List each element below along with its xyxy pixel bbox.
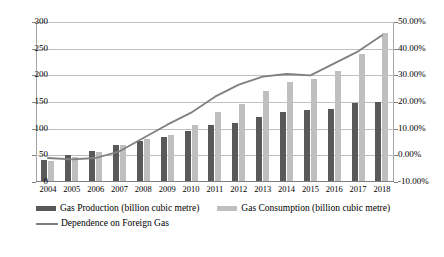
bar-group: [275, 22, 299, 182]
y-axis-left-tick-label: 200: [8, 70, 48, 79]
bar-gas-consumption: [168, 135, 174, 182]
chart-container: 2004200520062007200820092010201120122013…: [0, 0, 444, 257]
bar-gas-production: [352, 103, 358, 182]
bar-gas-consumption: [96, 152, 102, 182]
bar-gas-production: [185, 131, 191, 182]
bar-gas-consumption: [144, 139, 150, 182]
bar-gas-production: [161, 137, 167, 182]
axis-tick-mark: [32, 182, 36, 183]
x-axis-tick-label: 2017: [346, 184, 370, 194]
axis-tick-mark: [394, 22, 398, 23]
y-axis-left-tick-label: 100: [8, 124, 48, 133]
legend-item-gas-consumption[interactable]: Gas Consumption (billion cubic metre): [217, 203, 390, 214]
bar-group: [298, 22, 322, 182]
x-axis-tick-label: 2012: [227, 184, 251, 194]
bar-gas-production: [137, 141, 143, 182]
bar-gas-production: [304, 110, 310, 182]
bar-group: [179, 22, 203, 182]
y-axis-right-tick-label: 20.00%: [398, 97, 444, 106]
axis-tick-mark: [32, 75, 36, 76]
axis-tick-mark: [394, 75, 398, 76]
y-axis-left-tick-label: 150: [8, 97, 48, 106]
x-axis-tick-label: 2009: [155, 184, 179, 194]
x-axis-tick-label: 2005: [60, 184, 84, 194]
bar-group: [251, 22, 275, 182]
bar-group: [131, 22, 155, 182]
bar-gas-consumption: [239, 104, 245, 182]
bar-group: [203, 22, 227, 182]
axis-tick-mark: [32, 129, 36, 130]
legend-row-1: Gas Production (billion cubic metre) Gas…: [36, 203, 408, 214]
bar-gas-production: [113, 145, 119, 182]
y-axis-right-tick-label: 30.00%: [398, 70, 444, 79]
legend-label-consumption: Gas Consumption (billion cubic metre): [241, 203, 390, 214]
axis-tick-mark: [32, 49, 36, 50]
axis-tick-mark: [394, 155, 398, 156]
bar-gas-consumption: [359, 54, 365, 182]
y-axis-left-tick-label: 250: [8, 44, 48, 53]
legend-item-gas-production[interactable]: Gas Production (billion cubic metre): [36, 203, 199, 214]
y-axis-left-tick-label: 300: [8, 17, 48, 26]
axis-tick-mark: [32, 22, 36, 23]
axis-tick-mark: [394, 102, 398, 103]
x-axis-tick-label: 2008: [131, 184, 155, 194]
bar-gas-consumption: [48, 161, 54, 182]
axis-tick-mark: [32, 102, 36, 103]
bar-group: [84, 22, 108, 182]
bar-group: [108, 22, 132, 182]
bar-gas-production: [65, 155, 71, 182]
x-axis-tick-label: 2007: [108, 184, 132, 194]
plot-area: [36, 22, 394, 182]
x-axis-tick-label: 2018: [370, 184, 394, 194]
bar-gas-production: [232, 123, 238, 182]
y-axis-left-tick-label: 0: [8, 177, 48, 186]
legend-swatch-production-icon: [36, 206, 56, 211]
bar-gas-consumption: [263, 91, 269, 182]
x-axis-tick-label: 2013: [251, 184, 275, 194]
x-axis-labels: 2004200520062007200820092010201120122013…: [36, 184, 394, 194]
y-axis-left-tick-label: 50: [8, 150, 48, 159]
bar-group: [60, 22, 84, 182]
chart-legend: Gas Production (billion cubic metre) Gas…: [36, 203, 408, 233]
x-axis-tick-label: 2016: [322, 184, 346, 194]
bar-gas-production: [280, 112, 286, 182]
legend-label-dependence: Dependence on Foreign Gas: [61, 218, 169, 229]
bar-group: [322, 22, 346, 182]
legend-item-dependence-on-foreign-gas[interactable]: Dependence on Foreign Gas: [36, 218, 169, 229]
legend-swatch-consumption-icon: [217, 206, 237, 211]
legend-row-2: Dependence on Foreign Gas: [36, 218, 408, 229]
y-axis-right-tick-label: 10.00%: [398, 124, 444, 133]
axis-tick-mark: [394, 182, 398, 183]
bar-gas-consumption: [382, 33, 388, 182]
bar-gas-consumption: [192, 125, 198, 182]
legend-swatch-line-icon: [36, 223, 58, 225]
bar-group: [346, 22, 370, 182]
bar-gas-production: [375, 102, 381, 182]
y-axis-right-tick-label: 40.00%: [398, 44, 444, 53]
bar-group: [227, 22, 251, 182]
y-axis-right-tick-label: -10.00%: [398, 177, 444, 186]
bar-gas-production: [256, 117, 262, 182]
x-axis-tick-label: 2010: [179, 184, 203, 194]
x-axis-tick-label: 2015: [298, 184, 322, 194]
y-axis-right-tick-label: 0.00%: [398, 150, 444, 159]
legend-label-production: Gas Production (billion cubic metre): [60, 203, 199, 214]
x-axis-baseline: [36, 181, 394, 182]
axis-tick-mark: [394, 129, 398, 130]
axis-tick-mark: [32, 155, 36, 156]
bar-gas-consumption: [72, 157, 78, 182]
bar-gas-consumption: [120, 145, 126, 182]
bar-gas-consumption: [287, 82, 293, 182]
bar-gas-consumption: [215, 112, 221, 182]
bar-group: [155, 22, 179, 182]
axis-tick-mark: [394, 49, 398, 50]
x-axis-tick-label: 2006: [84, 184, 108, 194]
x-axis-tick-label: 2014: [275, 184, 299, 194]
bar-gas-production: [328, 109, 334, 182]
bar-gas-production: [208, 125, 214, 182]
bar-gas-consumption: [311, 79, 317, 182]
bar-gas-consumption: [335, 71, 341, 182]
bar-gas-production: [89, 151, 95, 182]
bar-group: [370, 22, 394, 182]
bar-series-layer: [36, 22, 394, 182]
